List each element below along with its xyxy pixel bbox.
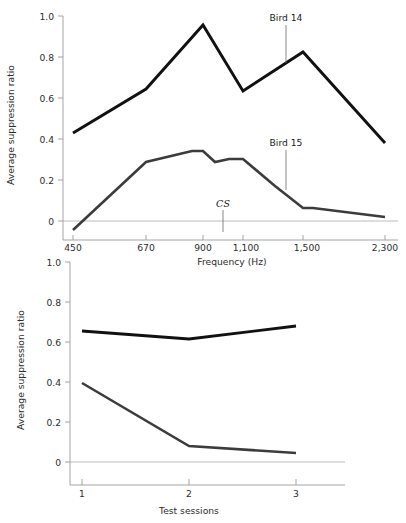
bottom-x-axis-title: Test sessions	[158, 505, 219, 516]
bottom-xtick-label-2: 2	[186, 488, 192, 499]
top-series-annotation-bird-15: Bird 15	[270, 137, 303, 190]
top-y-ticks: 1.0 0.8 0.6 0.4 0.2 0	[39, 11, 63, 227]
panel-test-sessions: Average suppression ratio 1.0 0.8 0.6 0.…	[15, 257, 345, 517]
bottom-x-ticks: 1 2 3	[79, 479, 299, 499]
bottom-ytick-label-0.2: 0.2	[46, 417, 61, 428]
top-ytick-label-1.0: 1.0	[39, 11, 54, 22]
top-xtick-label-450: 450	[64, 242, 82, 253]
top-x-ticks: 450 670 900 1,100 1,500 2,300	[64, 235, 398, 253]
bottom-ytick-label-0.4: 0.4	[46, 377, 61, 388]
bottom-ytick-label-0.6: 0.6	[46, 337, 61, 348]
top-series-line-bird-15	[73, 151, 385, 230]
top-xtick-label-670: 670	[137, 242, 155, 253]
top-series-line-bird-14	[73, 25, 385, 143]
top-series-label-bird-15: Bird 15	[270, 137, 303, 148]
top-ytick-label-0.8: 0.8	[39, 52, 54, 63]
bottom-ytick-label-1.0: 1.0	[46, 257, 61, 268]
bottom-series-line-bird-14	[82, 326, 296, 339]
top-ytick-label-0.6: 0.6	[39, 93, 54, 104]
figure-container: Average suppression ratio 1.0 0.8 0.6 0.…	[0, 0, 406, 523]
bottom-series-line-bird-15	[82, 383, 296, 453]
cs-annotation: CS	[216, 198, 230, 232]
panel-generalization-gradient: Average suppression ratio 1.0 0.8 0.6 0.…	[5, 11, 398, 268]
top-ytick-label-0.4: 0.4	[39, 134, 54, 145]
top-xtick-label-900: 900	[194, 242, 212, 253]
bottom-y-axis-title: Average suppression ratio	[15, 310, 26, 430]
top-xtick-label-1100: 1,100	[233, 242, 259, 253]
top-x-axis-title: Frequency (Hz)	[197, 256, 266, 267]
two-panel-line-chart: Average suppression ratio 1.0 0.8 0.6 0.…	[0, 0, 406, 523]
cs-annotation-label: CS	[216, 198, 230, 209]
top-ytick-label-0.2: 0.2	[39, 175, 54, 186]
bottom-y-ticks: 1.0 0.8 0.6 0.4 0.2 0	[46, 257, 70, 468]
top-xtick-label-1500: 1,500	[294, 242, 320, 253]
bottom-xtick-label-1: 1	[79, 488, 85, 499]
top-ytick-label-0: 0	[48, 216, 54, 227]
top-xtick-label-2300: 2,300	[372, 242, 398, 253]
top-series-label-bird-14: Bird 14	[270, 12, 303, 23]
bottom-xtick-label-3: 3	[293, 488, 299, 499]
bottom-ytick-label-0.8: 0.8	[46, 297, 61, 308]
bottom-ytick-label-0: 0	[55, 457, 61, 468]
top-y-axis-title: Average suppression ratio	[5, 65, 16, 185]
